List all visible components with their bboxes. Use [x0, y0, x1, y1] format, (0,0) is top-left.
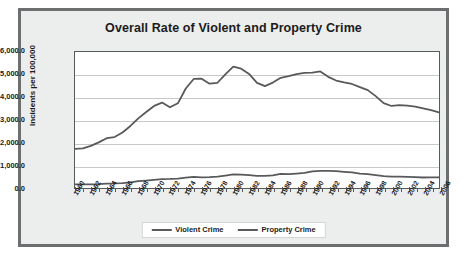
x-axis-tick: [385, 188, 386, 192]
legend-swatch-icon: [238, 229, 258, 231]
x-axis-tick: [258, 188, 259, 192]
chart-frame: Overall Rate of Violent and Property Cri…: [18, 8, 449, 247]
x-axis-tick: [417, 188, 418, 192]
y-axis-tick-label: 4,000.0: [0, 92, 25, 101]
legend-item[interactable]: Property Crime: [238, 225, 316, 234]
legend-label: Violent Crime: [175, 225, 223, 234]
x-axis-tick: [147, 188, 148, 192]
y-axis-label: Incidents per 100,000: [28, 31, 37, 141]
legend-swatch-icon: [151, 229, 171, 231]
y-axis-tick-label: 3,000.0: [0, 115, 25, 124]
x-axis-tick: [242, 188, 243, 192]
series-lines: [75, 52, 439, 188]
x-axis-tick: [83, 188, 84, 192]
x-axis-tick: [226, 188, 227, 192]
x-axis-tick: [433, 188, 434, 192]
x-axis-tick-label: 2006: [438, 180, 452, 197]
chart-title: Overall Rate of Violent and Property Cri…: [21, 21, 446, 35]
y-axis-tick-label: 2,000.0: [0, 138, 25, 147]
x-axis-tick: [290, 188, 291, 192]
x-axis-tick: [99, 188, 100, 192]
x-axis-tick: [338, 188, 339, 192]
y-axis-tick-label: 0.0: [0, 184, 25, 193]
y-axis-tick-label: 6,000.0: [0, 46, 25, 55]
x-axis-tick: [131, 188, 132, 192]
x-axis-tick: [115, 188, 116, 192]
plot-area: [74, 51, 440, 189]
y-axis-tick-label: 5,000.0: [0, 69, 25, 78]
y-axis-tick-label: 1,000.0: [0, 161, 25, 170]
series-line: [75, 67, 439, 149]
legend-label: Property Crime: [262, 225, 316, 234]
x-axis-tick: [194, 188, 195, 192]
x-axis-tick: [369, 188, 370, 192]
x-axis-tick: [163, 188, 164, 192]
chart-legend: Violent CrimeProperty Crime: [141, 222, 325, 238]
legend-item[interactable]: Violent Crime: [151, 225, 223, 234]
x-axis-tick: [306, 188, 307, 192]
x-axis-tick: [322, 188, 323, 192]
x-axis-tick: [401, 188, 402, 192]
x-axis-tick: [274, 188, 275, 192]
x-axis-tick: [178, 188, 179, 192]
x-axis-tick: [210, 188, 211, 192]
